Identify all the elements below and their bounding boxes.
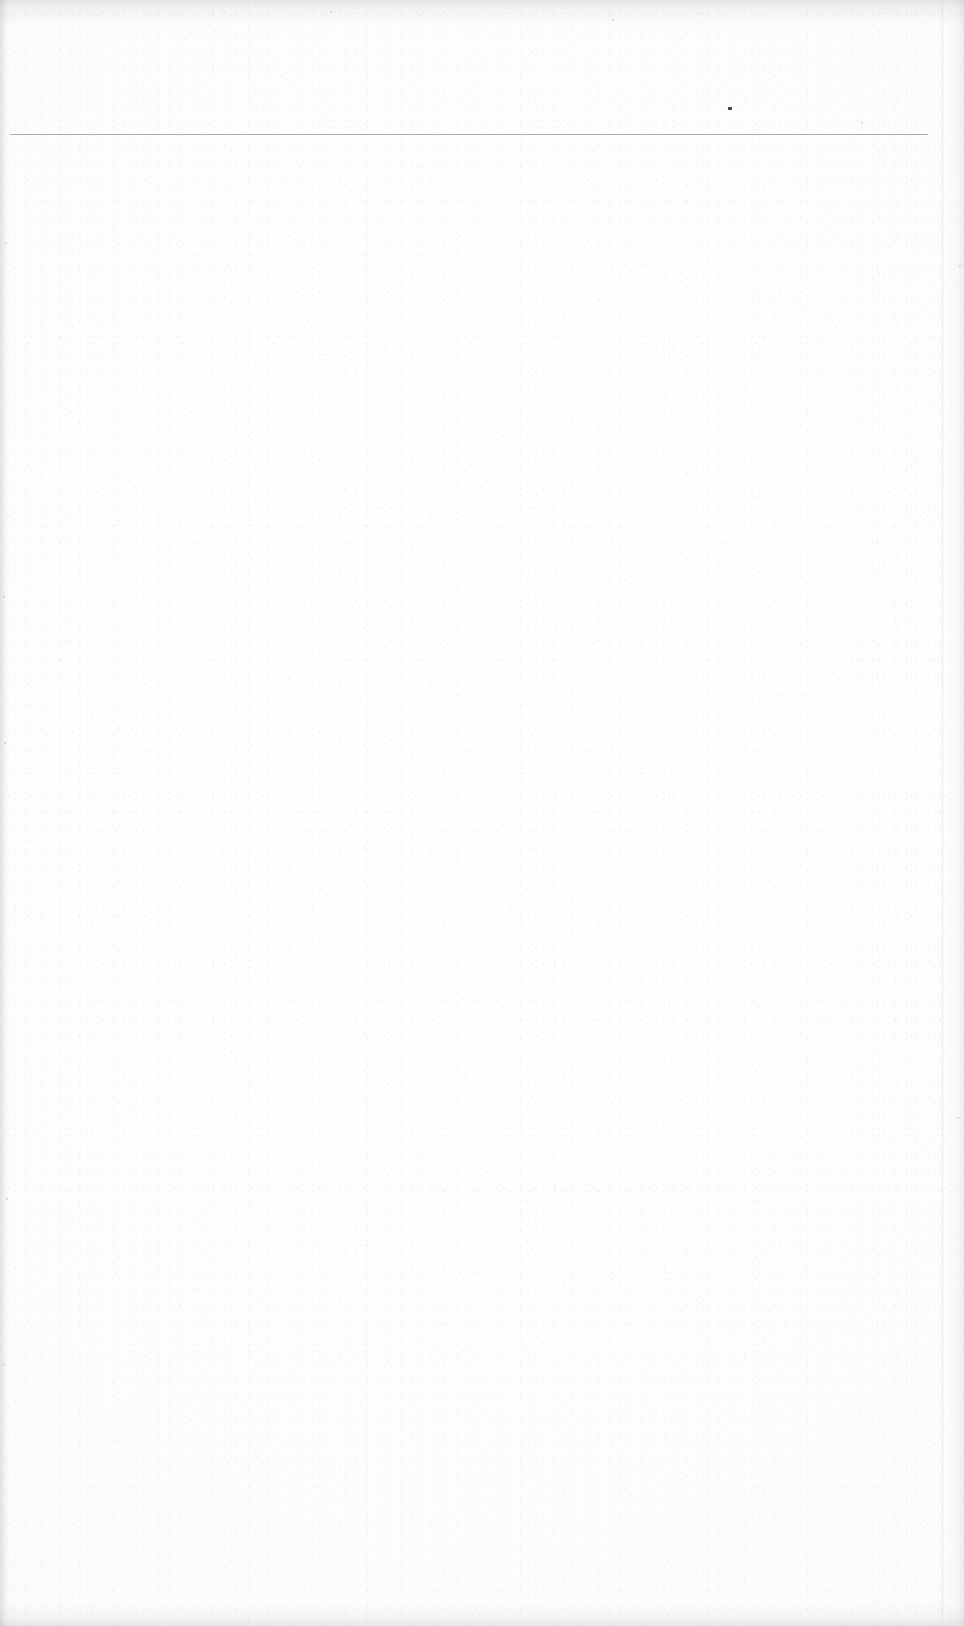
micro-speck-mark xyxy=(861,122,863,124)
ink-speck-mark xyxy=(728,107,732,110)
micro-speck-mark xyxy=(612,19,614,21)
scan-edge-shadow-top xyxy=(0,0,964,26)
page-body-text xyxy=(0,135,1,136)
micro-speck-mark xyxy=(330,11,332,13)
page-body-area xyxy=(0,135,964,1626)
scanned-page xyxy=(0,0,964,1626)
